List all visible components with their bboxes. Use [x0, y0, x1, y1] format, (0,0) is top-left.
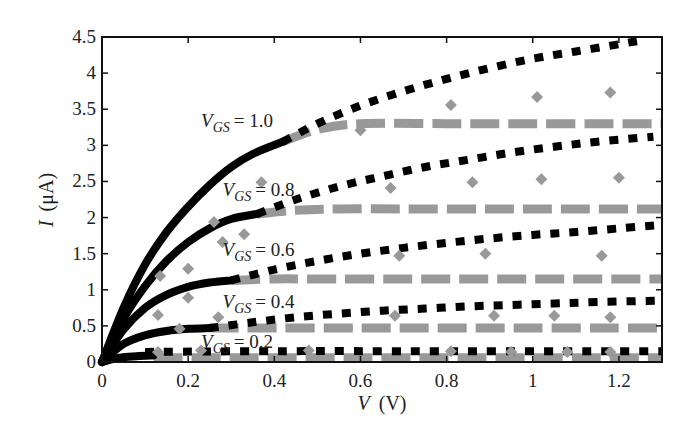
diamond-marker-icon: [488, 310, 500, 322]
diamond-marker-icon: [479, 248, 491, 260]
diamond-marker-icon: [182, 263, 194, 275]
curve-label-vgs-0-6: VGS= 0.6: [223, 239, 295, 264]
y-tick-label: 2: [87, 207, 97, 228]
x-tick-label: 0.6: [349, 370, 373, 391]
x-axis-unit: (V): [379, 392, 407, 415]
curve-label-vgs-1: VGS= 1.0: [201, 110, 273, 135]
diamond-marker-icon: [613, 172, 625, 184]
x-tick-label: 1.2: [607, 370, 631, 391]
y-tick-label: 1: [87, 279, 97, 300]
y-tick-label: 3: [87, 134, 97, 155]
y-tick-label: 0.5: [72, 315, 96, 336]
gray-dashed-saturation-line: [283, 123, 662, 141]
x-tick-label: 0.2: [176, 370, 200, 391]
diamond-marker-icon: [535, 173, 547, 185]
diamond-marker-icon: [604, 311, 616, 323]
gray-dashed-saturation-line: [231, 279, 662, 281]
plot-curves: [102, 41, 662, 362]
diamond-marker-icon: [152, 309, 164, 321]
diamond-marker-icon: [548, 310, 560, 322]
diamond-marker-icon: [604, 87, 616, 99]
x-axis-title: V (V): [358, 392, 407, 415]
y-tick-label: 2.5: [72, 170, 96, 191]
black-dotted-line: [257, 137, 653, 214]
x-tick-label: 0.8: [435, 370, 459, 391]
y-tick-label: 3.5: [72, 98, 96, 119]
diamond-marker-icon: [212, 311, 224, 323]
curve-label-vgs-0-8: VGS= 0.8: [223, 179, 295, 204]
diamond-marker-icon: [182, 292, 194, 304]
y-axis-title: I (μA): [35, 173, 58, 228]
diamond-marker-icon: [596, 250, 608, 262]
x-tick-label: 0: [97, 370, 107, 391]
x-tick-label: 0.4: [262, 370, 286, 391]
y-tick-label: 0: [87, 351, 97, 372]
x-axis-symbol: V: [358, 392, 373, 414]
diamond-marker-icon: [466, 176, 478, 188]
y-axis-symbol: I: [35, 219, 57, 228]
y-axis-unit: (μA): [35, 173, 58, 212]
black-dotted-line: [231, 225, 662, 281]
diamond-marker-icon: [238, 228, 250, 240]
iv-characteristics-chart: VGS= 1.0VGS= 0.8VGS= 0.6VGS= 0.4VGS= 0.2…: [0, 0, 695, 438]
y-tick-label: 4.5: [72, 26, 96, 47]
y-tick-label: 1.5: [72, 243, 96, 264]
diamond-marker-icon: [531, 91, 543, 103]
gray-dashed-saturation-line: [257, 209, 662, 214]
x-tick-label: 1: [528, 370, 538, 391]
y-axis-ticks: 00.511.522.533.544.5: [72, 26, 662, 372]
curve-label-vgs-0-4: VGS= 0.4: [223, 291, 295, 316]
diamond-marker-icon: [445, 99, 457, 111]
y-tick-label: 4: [87, 62, 97, 83]
curve-vgs-0-2: [102, 351, 662, 362]
diamond-marker-icon: [385, 182, 397, 194]
